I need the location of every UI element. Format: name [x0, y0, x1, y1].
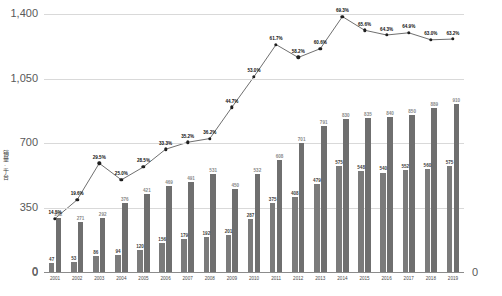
bar-value-label: 889 — [430, 102, 438, 107]
x-axis-tick-label: 2003 — [94, 276, 104, 281]
bar-value-label: 53 — [71, 256, 76, 261]
bar-value-label: 156 — [158, 237, 166, 242]
bar-front — [159, 243, 165, 272]
bar-back — [255, 174, 261, 272]
bar-front — [204, 237, 210, 272]
bar-value-label: 910 — [453, 98, 461, 103]
bar-value-label: 120 — [136, 244, 144, 249]
bar-front — [137, 250, 143, 272]
bar-front — [314, 184, 320, 272]
x-axis-tick-label: 2007 — [183, 276, 193, 281]
y-axis-tick-label: 350 — [0, 201, 38, 213]
y-axis-zero-label: 0 — [32, 266, 44, 278]
gridline — [44, 79, 464, 80]
bar-back — [343, 119, 349, 272]
bar-back — [78, 222, 84, 272]
y-axis-tick-label: 1,050 — [0, 72, 38, 84]
bar-back — [454, 104, 460, 272]
line-value-label: 53.0% — [247, 68, 260, 73]
bar-back — [166, 186, 172, 272]
line-value-label: 35.2% — [181, 134, 194, 139]
bar-value-label: 86 — [93, 250, 98, 255]
y-axis-tick-label: 1,400 — [0, 7, 38, 19]
x-axis-tick-label: 2002 — [72, 276, 82, 281]
bar-back — [122, 203, 128, 272]
x-axis-tick-label: 2006 — [160, 276, 170, 281]
chart-top-margin — [0, 0, 502, 9]
bar-value-label: 201 — [225, 229, 233, 234]
bar-value-label: 287 — [247, 213, 255, 218]
bar-value-label: 830 — [342, 113, 350, 118]
x-axis-tick-label: 2010 — [249, 276, 259, 281]
bar-value-label: 575 — [335, 160, 343, 165]
plot-area: 03507001,0501,400017.5%35%52.5%70%472922… — [44, 14, 464, 272]
x-axis-tick-label: 2012 — [293, 276, 303, 281]
y-axis-title: 销量·千台 — [1, 150, 8, 180]
line-value-label: 33.3% — [159, 141, 172, 146]
bar-front — [403, 170, 409, 272]
bar-value-label: 271 — [77, 216, 85, 221]
bar-back — [365, 118, 371, 272]
bar-value-label: 408 — [291, 191, 299, 196]
bar-front — [358, 171, 364, 272]
bar-back — [56, 218, 62, 272]
bar-back — [144, 194, 150, 272]
x-axis-tick-label: 2017 — [404, 276, 414, 281]
line-value-label: 61.7% — [270, 36, 283, 41]
bar-value-label: 179 — [180, 233, 188, 238]
bar-value-label: 540 — [379, 166, 387, 171]
x-axis-tick-label: 2009 — [227, 276, 237, 281]
bar-value-label: 608 — [276, 154, 284, 159]
line-value-label: 14.5% — [49, 210, 62, 215]
bar-back — [232, 189, 238, 272]
bar-front — [115, 255, 121, 272]
line-value-label: 63.2% — [446, 31, 459, 36]
bar-value-label: 560 — [424, 163, 432, 168]
line-value-label: 63.0% — [424, 31, 437, 36]
bar-value-label: 701 — [298, 137, 306, 142]
x-axis-tick-label: 2018 — [426, 276, 436, 281]
line-value-label: 36.2% — [203, 130, 216, 135]
bar-front — [71, 262, 77, 272]
bar-front — [270, 203, 276, 272]
line-value-label: 44.7% — [225, 99, 238, 104]
y2-axis-zero-label: 0 — [464, 266, 478, 278]
x-axis-tick-label: 2013 — [315, 276, 325, 281]
bar-front — [447, 166, 453, 272]
bar-value-label: 479 — [313, 178, 321, 183]
bar-value-label: 292 — [99, 212, 107, 217]
bar-value-label: 421 — [143, 188, 151, 193]
bar-value-label: 791 — [320, 120, 328, 125]
bar-back — [299, 143, 305, 272]
line-value-label: 60.6% — [314, 40, 327, 45]
bar-value-label: 94 — [115, 249, 120, 254]
combo-chart: 销量·千台 03507001,0501,400017.5%35%52.5%70%… — [0, 0, 502, 296]
bar-value-label: 575 — [446, 160, 454, 165]
bar-front — [248, 219, 254, 272]
x-axis-tick-label: 2005 — [138, 276, 148, 281]
bar-value-label: 192 — [203, 231, 211, 236]
bar-front — [93, 256, 99, 272]
bar-value-label: 850 — [408, 109, 416, 114]
line-value-label: 69.3% — [336, 8, 349, 13]
bar-back — [100, 218, 106, 272]
bar-back — [321, 126, 327, 272]
bar-front — [425, 169, 431, 272]
bar-front — [380, 173, 386, 273]
line-value-label: 28.5% — [137, 158, 150, 163]
x-axis-tick-label: 2008 — [205, 276, 215, 281]
bar-back — [210, 174, 216, 272]
line-value-label: 29.5% — [93, 155, 106, 160]
line-value-label: 19.6% — [71, 191, 84, 196]
line-value-label: 64.3% — [380, 27, 393, 32]
bar-front — [292, 197, 298, 272]
line-value-label: 58.2% — [292, 49, 305, 54]
x-axis-tick-label: 2011 — [271, 276, 281, 281]
x-axis-tick-label: 2001 — [50, 276, 60, 281]
bar-back — [277, 160, 283, 272]
gridline — [44, 14, 464, 15]
bar-value-label: 375 — [269, 197, 277, 202]
bar-value-label: 531 — [209, 168, 217, 173]
x-axis-line — [44, 272, 464, 273]
x-axis-tick-label: 2014 — [337, 276, 347, 281]
